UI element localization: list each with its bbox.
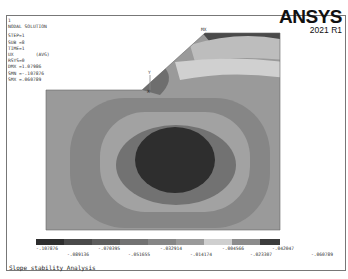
plot-title: Slope stability Analysis — [9, 264, 96, 271]
legend-label: -.089136 — [67, 252, 89, 257]
legend-labels: -.107876 -.070395 -.032914 -.004566 -.04… — [0, 0, 348, 279]
legend-label: -.060789 — [311, 252, 333, 257]
legend-label: -.107876 — [36, 246, 58, 251]
legend-label: -.023307 — [250, 252, 272, 257]
legend-label: -.014174 — [190, 252, 212, 257]
legend-label: -.042047 — [272, 246, 294, 251]
legend-label: -.070395 — [98, 246, 120, 251]
legend-label: -.032914 — [160, 246, 182, 251]
legend-label: -.051655 — [128, 252, 150, 257]
legend-label: -.004566 — [222, 246, 244, 251]
